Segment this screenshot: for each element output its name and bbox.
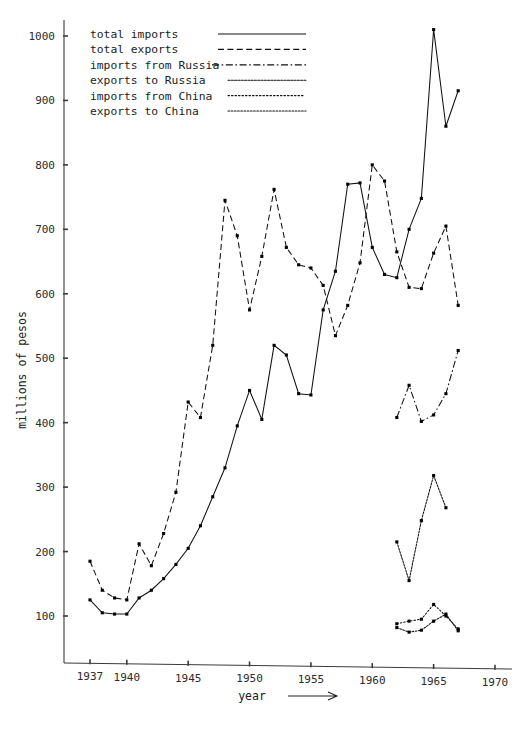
data-point (358, 261, 361, 264)
x-tick-label: 1955 (298, 673, 325, 686)
data-point (150, 564, 153, 567)
series-exports-to-russia (395, 474, 447, 582)
y-tick-label: 1000 (29, 30, 56, 43)
data-point (432, 603, 435, 606)
data-point (408, 620, 411, 623)
data-point (408, 579, 411, 582)
data-point (162, 577, 165, 580)
data-point (444, 225, 447, 228)
data-point (408, 384, 411, 387)
data-point (346, 304, 349, 307)
y-tick-label: 900 (35, 94, 55, 107)
data-point (420, 420, 423, 423)
data-point (432, 252, 435, 255)
data-point (285, 246, 288, 249)
data-point (199, 416, 202, 419)
data-point (420, 519, 423, 522)
data-point (334, 270, 337, 273)
data-point (358, 181, 361, 184)
data-point (199, 524, 202, 527)
data-point (334, 334, 337, 337)
data-point (248, 308, 251, 311)
x-tick-label: 1940 (114, 671, 141, 684)
data-point (395, 622, 398, 625)
axis-titles: millions of pesosyear (15, 311, 337, 703)
data-point (322, 284, 325, 287)
data-point (346, 183, 349, 186)
legend-label: exports to China (90, 105, 199, 118)
legend-label: exports to Russia (90, 74, 206, 87)
data-point (125, 613, 128, 616)
y-tick-label: 200 (35, 546, 55, 559)
y-tick-label: 700 (35, 223, 55, 236)
data-point (457, 89, 460, 92)
x-tick-label: 1950 (236, 672, 263, 685)
data-point (285, 353, 288, 356)
x-axis-arrow-icon (288, 692, 337, 700)
data-point (297, 263, 300, 266)
data-point (187, 547, 190, 550)
data-point (432, 474, 435, 477)
series-total-exports (88, 163, 459, 601)
data-point (138, 542, 141, 545)
data-point (174, 563, 177, 566)
data-point (88, 560, 91, 563)
data-point (408, 631, 411, 634)
data-point (297, 392, 300, 395)
y-tick-label: 800 (35, 159, 55, 172)
y-tick-label: 400 (35, 417, 55, 430)
data-point (211, 495, 214, 498)
data-point (273, 188, 276, 191)
data-point (322, 308, 325, 311)
data-point (383, 273, 386, 276)
chart-legend: total importstotal exportsimports from R… (90, 28, 306, 118)
data-point (432, 28, 435, 31)
series-line (397, 614, 458, 632)
y-tick-label: 500 (35, 352, 55, 365)
data-point (457, 629, 460, 632)
data-point (420, 197, 423, 200)
data-point (138, 596, 141, 599)
data-point (211, 344, 214, 347)
data-point (273, 344, 276, 347)
series-line (90, 165, 458, 600)
data-series (88, 28, 459, 634)
data-point (408, 286, 411, 289)
data-point (187, 400, 190, 403)
x-axis-title: year (238, 689, 266, 703)
legend-label: imports from China (90, 90, 212, 103)
y-tick-label: 300 (35, 481, 55, 494)
data-point (395, 250, 398, 253)
legend-label: total exports (90, 43, 178, 56)
data-point (223, 466, 226, 469)
data-point (260, 418, 263, 421)
data-point (395, 416, 398, 419)
data-point (408, 228, 411, 231)
data-point (101, 589, 104, 592)
series-imports-from-russia (395, 349, 459, 423)
data-point (371, 246, 374, 249)
data-point (162, 532, 165, 535)
data-point (395, 626, 398, 629)
data-point (150, 589, 153, 592)
data-point (309, 266, 312, 269)
chart-container: 1002003004005006007008009001000193719401… (0, 0, 526, 730)
data-point (101, 611, 104, 614)
x-tick-label: 1945 (175, 672, 202, 685)
series-line (397, 350, 458, 421)
data-point (420, 629, 423, 632)
data-point (444, 613, 447, 616)
x-tick-label: 1965 (420, 675, 447, 688)
data-point (420, 287, 423, 290)
data-point (260, 255, 263, 258)
data-point (395, 276, 398, 279)
x-tick-label: 1937 (77, 670, 104, 683)
data-point (248, 389, 251, 392)
y-axis-title: millions of pesos (15, 311, 29, 429)
line-chart: 1002003004005006007008009001000193719401… (0, 0, 526, 730)
series-exports-to-china (395, 613, 459, 634)
data-point (444, 125, 447, 128)
y-tick-label: 100 (35, 610, 55, 623)
x-axis-line (64, 663, 512, 669)
data-point (432, 413, 435, 416)
